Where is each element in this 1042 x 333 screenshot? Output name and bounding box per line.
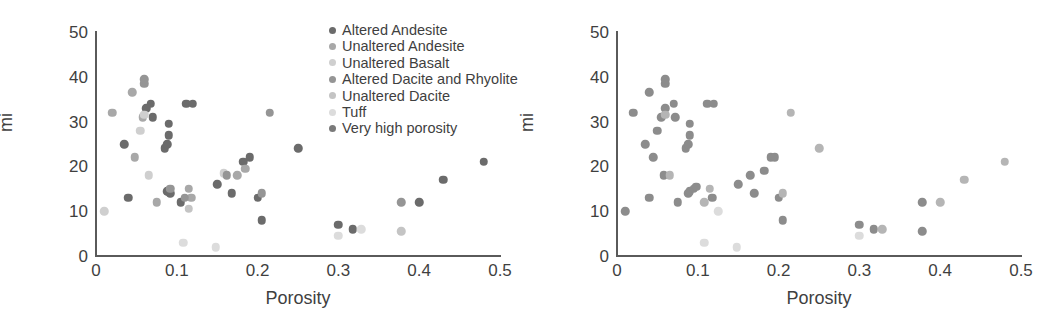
- data-point: [245, 153, 254, 162]
- data-point: [152, 198, 161, 207]
- data-point: [213, 180, 222, 189]
- data-point: [629, 108, 638, 117]
- legend-item-label: Altered Andesite: [342, 22, 448, 38]
- data-point: [918, 227, 927, 236]
- x-tick-label: 0: [66, 262, 126, 279]
- data-point: [692, 182, 701, 191]
- data-point: [706, 185, 715, 194]
- data-point: [415, 198, 424, 207]
- data-point: [760, 167, 769, 176]
- legend-left: Altered AndesiteUnaltered AndesiteUnalte…: [329, 22, 518, 137]
- y-tick-label: 20: [569, 158, 609, 175]
- x-tick-label: 0.3: [829, 262, 889, 279]
- data-point: [621, 207, 630, 216]
- scatter-figure: mi Porosity 01020304050 Altered Andesite…: [0, 0, 1042, 333]
- plot-area-right: [617, 32, 1021, 256]
- y-tick-labels-right: 01020304050: [563, 0, 609, 333]
- data-point: [166, 185, 175, 194]
- data-point: [714, 207, 723, 216]
- data-point: [397, 198, 406, 207]
- data-point: [227, 189, 236, 198]
- x-tick-label: 0.1: [147, 262, 207, 279]
- data-point: [147, 99, 156, 108]
- data-point: [257, 189, 266, 198]
- legend-item-label: Tuff: [342, 104, 366, 120]
- data-point: [700, 238, 709, 247]
- data-point: [140, 111, 149, 120]
- data-point: [163, 140, 172, 149]
- x-tick-label: 0.3: [308, 262, 368, 279]
- data-point: [397, 227, 406, 236]
- x-tick-label: 0.1: [668, 262, 728, 279]
- y-tick-label: 30: [48, 114, 88, 131]
- data-point: [708, 194, 717, 203]
- data-point: [265, 108, 274, 117]
- x-axis-title-right: Porosity: [617, 288, 1021, 309]
- x-tick-label: 0.2: [228, 262, 288, 279]
- data-point: [770, 153, 779, 162]
- y-tick-label: 30: [569, 114, 609, 131]
- y-tick-label: 50: [569, 24, 609, 41]
- data-point: [669, 99, 678, 108]
- data-point: [936, 198, 945, 207]
- legend-marker-icon: [329, 76, 336, 83]
- data-point: [131, 153, 140, 162]
- legend-marker-icon: [329, 92, 336, 99]
- data-point: [645, 88, 654, 97]
- data-point: [140, 75, 149, 84]
- legend-item[interactable]: Altered Andesite: [329, 22, 518, 38]
- data-point: [439, 176, 448, 185]
- data-point: [746, 171, 755, 180]
- legend-item-label: Very high porosity: [342, 120, 457, 136]
- data-point: [661, 75, 670, 84]
- data-point: [185, 205, 194, 214]
- legend-item[interactable]: Tuff: [329, 104, 518, 120]
- scatter-panel-right: mi Porosity 01020304050 Lava(Auto)Brecci…: [521, 0, 1042, 333]
- data-point: [223, 171, 232, 180]
- data-point: [148, 113, 157, 122]
- y-axis-title-left: mi: [0, 113, 17, 132]
- legend-item[interactable]: Unaltered Andesite: [329, 38, 518, 54]
- data-point: [480, 158, 489, 167]
- data-point: [257, 216, 266, 225]
- legend-item[interactable]: Very high porosity: [329, 120, 518, 136]
- data-point: [645, 194, 654, 203]
- data-point: [732, 243, 741, 252]
- y-tick-label: 10: [48, 203, 88, 220]
- data-point: [855, 220, 864, 229]
- y-tick-labels-left: 01020304050: [42, 0, 88, 333]
- data-point: [124, 194, 133, 203]
- y-tick-label: 40: [48, 69, 88, 86]
- legend-item[interactable]: Altered Dacite and Rhyolite: [329, 71, 518, 87]
- data-point: [673, 198, 682, 207]
- data-point: [855, 232, 864, 241]
- x-axis-title-left: Porosity: [96, 288, 500, 309]
- data-point: [241, 164, 250, 173]
- y-tick-label: 10: [569, 203, 609, 220]
- data-point: [918, 198, 927, 207]
- legend-item[interactable]: Unaltered Dacite: [329, 88, 518, 104]
- data-point: [960, 176, 969, 185]
- x-tick-label: 0: [587, 262, 647, 279]
- data-point: [185, 185, 194, 194]
- data-point: [661, 111, 670, 120]
- data-point: [108, 108, 117, 117]
- data-point: [144, 171, 153, 180]
- data-point: [179, 238, 188, 247]
- y-tick-label: 20: [48, 158, 88, 175]
- data-point: [685, 131, 694, 140]
- data-point: [334, 232, 343, 241]
- legend-item[interactable]: Unaltered Basalt: [329, 55, 518, 71]
- data-point: [1001, 158, 1010, 167]
- data-point: [164, 131, 173, 140]
- data-point: [750, 189, 759, 198]
- data-point: [233, 171, 242, 180]
- data-point: [878, 225, 887, 234]
- data-point: [211, 243, 220, 252]
- data-point: [181, 194, 190, 203]
- x-tick-label: 0.2: [749, 262, 809, 279]
- x-tick-label: 0.4: [910, 262, 970, 279]
- data-point: [700, 198, 709, 207]
- data-point: [665, 171, 674, 180]
- x-tick-label: 0.4: [389, 262, 449, 279]
